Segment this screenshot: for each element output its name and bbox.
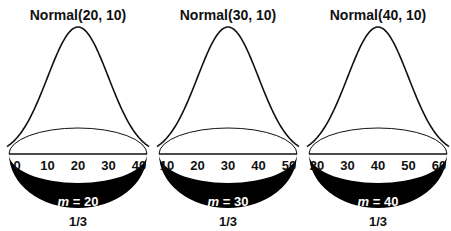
panel-1: Normal(20, 10)010203040m = 201/3 <box>7 7 149 229</box>
x-tick-label: 20 <box>71 158 85 173</box>
x-tick-label: 10 <box>40 158 54 173</box>
x-tick-label: 30 <box>221 158 235 173</box>
x-tick-label: 50 <box>282 158 296 173</box>
mean-variable: m <box>358 194 370 209</box>
x-tick-label: 40 <box>251 158 265 173</box>
mean-value: = 30 <box>219 194 248 209</box>
x-tick-label: 20 <box>190 158 204 173</box>
panel-title: Normal(20, 10) <box>30 7 126 23</box>
mean-value: = 40 <box>369 194 398 209</box>
x-tick-label: 30 <box>340 158 354 173</box>
mean-value: = 20 <box>69 194 98 209</box>
x-tick-label: 40 <box>371 158 385 173</box>
panel-3: Normal(40, 10)2030405060m = 401/3 <box>307 7 449 229</box>
density-curve <box>7 27 149 146</box>
probability-label: 1/3 <box>69 214 87 229</box>
x-tick-label: 20 <box>310 158 324 173</box>
x-tick-label: 10 <box>160 158 174 173</box>
panel-2: Normal(30, 10)1020304050m = 301/3 <box>157 7 299 229</box>
mean-label: m = 30 <box>208 194 249 209</box>
disk-top-arc <box>159 128 297 154</box>
x-tick-label: 60 <box>432 158 446 173</box>
x-tick-label: 50 <box>401 158 415 173</box>
x-tick-label: 40 <box>132 158 146 173</box>
mean-label: m = 40 <box>358 194 399 209</box>
panel-title: Normal(30, 10) <box>180 7 276 23</box>
disk-top-arc <box>309 128 447 154</box>
density-curve <box>307 27 449 146</box>
probability-label: 1/3 <box>219 214 237 229</box>
mean-variable: m <box>208 194 220 209</box>
chart-canvas: Normal(20, 10)010203040m = 201/3Normal(3… <box>0 0 451 231</box>
mean-label: m = 20 <box>58 194 99 209</box>
x-tick-label: 30 <box>101 158 115 173</box>
x-tick-label: 0 <box>13 158 20 173</box>
density-curve <box>157 27 299 146</box>
probability-label: 1/3 <box>369 214 387 229</box>
disk-top-arc <box>9 128 147 154</box>
mean-variable: m <box>58 194 70 209</box>
normal-distributions-figure: Normal(20, 10)010203040m = 201/3Normal(3… <box>0 0 451 231</box>
panel-title: Normal(40, 10) <box>330 7 426 23</box>
